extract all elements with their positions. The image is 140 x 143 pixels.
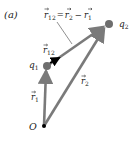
r2-label: r2 [81,76,89,87]
charge-q1 [43,62,51,70]
q1-label: q1 [29,60,39,71]
r1-label: r1 [31,92,39,103]
origin-point [42,124,46,128]
r12-label: r12 [43,45,55,56]
vector-r1-arrow [44,71,46,126]
vector-diagram: (a) r12=r2−r1 q1 q2 O r12 r1 [0,0,140,143]
vector-r2-arrow [44,29,104,126]
equation-label: r12=r2−r1 [44,10,92,21]
leader-line [57,22,72,44]
charge-q2 [105,20,113,28]
q2-label: q2 [119,19,129,30]
origin-label: O [29,121,37,132]
panel-label: (a) [4,9,18,20]
